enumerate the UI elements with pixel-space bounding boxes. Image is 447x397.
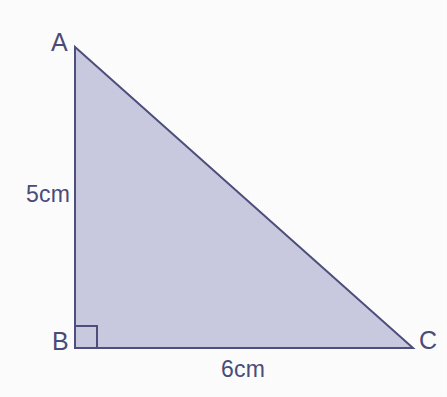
side-label-bc-length: 6cm [221,358,265,381]
side-label-ab-length: 5cm [26,183,70,206]
geometry-figure: A B C 5cm 6cm [0,0,447,397]
vertex-label-a: A [51,30,68,55]
vertex-label-c: C [419,328,437,353]
triangle-abc-shape [75,47,413,348]
vertex-label-b: B [52,329,69,354]
